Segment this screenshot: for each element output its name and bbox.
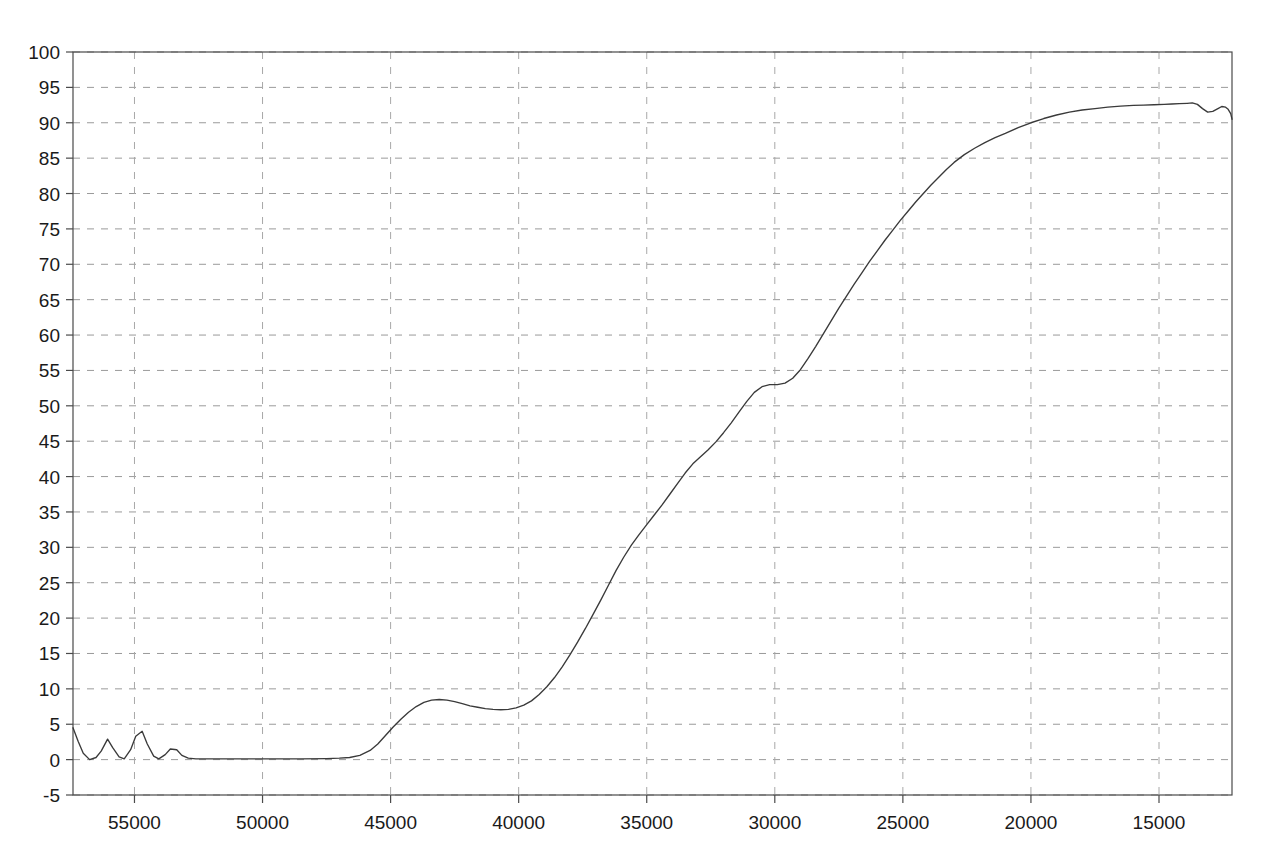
vertical-gridlines [134, 52, 1159, 795]
y-axis-tick-label: 100 [28, 42, 60, 63]
y-axis-tick-label: 25 [39, 573, 60, 594]
y-axis-tick-marks [66, 52, 73, 795]
x-axis-tick-label: 50000 [236, 812, 289, 833]
series-line-transmittance [73, 103, 1232, 760]
y-axis-tick-label: 40 [39, 467, 60, 488]
plot-border [73, 52, 1232, 795]
y-axis-tick-label: 20 [39, 608, 60, 629]
x-axis-labels: 5500050000450004000035000300002500020000… [108, 812, 1185, 833]
y-axis-tick-label: 80 [39, 184, 60, 205]
horizontal-gridlines [73, 52, 1232, 795]
y-axis-tick-label: 15 [39, 643, 60, 664]
y-axis-tick-label: 95 [39, 77, 60, 98]
y-axis-tick-label: 75 [39, 219, 60, 240]
y-axis-tick-label: 70 [39, 254, 60, 275]
x-axis-tick-label: 45000 [364, 812, 417, 833]
y-axis-tick-label: -5 [43, 785, 60, 806]
x-axis-tick-marks [134, 795, 1159, 803]
data-series-group [73, 103, 1232, 760]
plot-frame [73, 52, 1232, 795]
x-axis-tick-label: 35000 [620, 812, 673, 833]
x-axis-tick-label: 20000 [1005, 812, 1058, 833]
y-axis-labels: -505101520253035404550556065707580859095… [28, 42, 60, 806]
y-axis-tick-label: 65 [39, 290, 60, 311]
y-axis-tick-label: 5 [49, 714, 60, 735]
transmittance-spectrum-chart: -505101520253035404550556065707580859095… [0, 0, 1269, 851]
x-axis-tick-label: 15000 [1133, 812, 1186, 833]
x-axis-tick-label: 55000 [108, 812, 161, 833]
y-axis-tick-label: 45 [39, 431, 60, 452]
chart-root: -505101520253035404550556065707580859095… [0, 0, 1269, 851]
x-axis-tick-label: 25000 [876, 812, 929, 833]
y-axis-tick-label: 85 [39, 148, 60, 169]
x-axis-tick-label: 30000 [748, 812, 801, 833]
y-axis-tick-label: 35 [39, 502, 60, 523]
y-axis-tick-label: 50 [39, 396, 60, 417]
y-axis-tick-label: 30 [39, 537, 60, 558]
y-axis-tick-label: 55 [39, 360, 60, 381]
y-axis-tick-label: 10 [39, 679, 60, 700]
y-axis-tick-label: 60 [39, 325, 60, 346]
x-axis-tick-label: 40000 [492, 812, 545, 833]
y-axis-tick-label: 0 [49, 750, 60, 771]
y-axis-tick-label: 90 [39, 113, 60, 134]
